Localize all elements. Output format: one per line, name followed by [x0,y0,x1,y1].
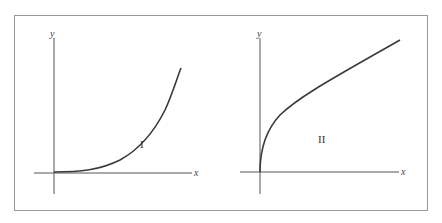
y-axis-label: y [49,28,55,39]
panel-ii: y x II [240,28,406,194]
x-axis-label: x [400,166,406,177]
panel-label-i: I [140,138,144,150]
graphs: y x I y x II [0,0,442,223]
curve-i [54,68,181,172]
panel-i: y x I [34,28,199,194]
curve-ii [260,40,400,172]
y-axis-label: y [256,28,262,39]
panel-label-ii: II [318,133,326,145]
x-axis-label: x [193,167,199,178]
